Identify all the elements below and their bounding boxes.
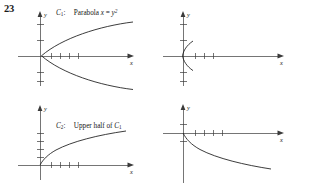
- x-axis-arrow: [278, 130, 285, 135]
- y-axis-label: y: [43, 11, 47, 18]
- x-axis-label: x: [279, 59, 283, 66]
- panel-c4-plot: y x: [155, 95, 310, 189]
- x-axis-arrow: [128, 53, 135, 58]
- panel-c2-curve-label: C2:: [56, 122, 72, 132]
- x-axis-arrow: [278, 53, 285, 58]
- panel-c3: y x C3:The part of C1 between (1, 1) and…: [155, 0, 310, 94]
- panel-c1-caption-text: Parabola: [74, 9, 101, 17]
- panel-c2-plot: y x: [0, 95, 155, 189]
- x-axis-arrow: [128, 162, 135, 167]
- y-axis-arrow: [38, 11, 43, 17]
- y-axis-arrow: [181, 11, 186, 17]
- panel-c2-caption-text: Upper half of: [74, 122, 115, 130]
- x-axis-label: x: [279, 136, 283, 143]
- y-axis-label: y: [186, 11, 190, 18]
- y-axis-label: y: [43, 105, 47, 112]
- panel-c1-caption: C1: Parabola x = y2: [56, 8, 117, 19]
- curve-upper-half: [40, 131, 126, 165]
- panel-c1-curve-label: C1:: [56, 9, 72, 19]
- panel-c2: y x C2: Upper half of C1: [0, 95, 155, 189]
- y-axis-arrow: [38, 105, 43, 111]
- x-axis-label: x: [129, 59, 133, 66]
- y-axis-label: y: [186, 104, 190, 111]
- panel-c4: y x C4:The lower half of C1 excluding (0…: [155, 95, 310, 189]
- y-axis-arrow: [181, 104, 186, 110]
- curve-lower-half: [183, 133, 271, 169]
- x-axis-label: x: [129, 168, 133, 175]
- panel-c3-plot: y x: [155, 0, 310, 94]
- panel-c1: y x C1: Parabola x = y2: [0, 0, 155, 94]
- panel-c2-caption: C2: Upper half of C1: [56, 122, 122, 132]
- figure-root: 23 y: [0, 0, 310, 189]
